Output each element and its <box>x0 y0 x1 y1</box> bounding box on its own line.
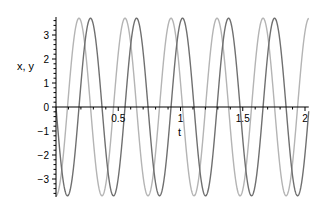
y-tick-label: 2 <box>43 54 49 65</box>
y-tick-label: −2 <box>38 150 50 161</box>
y-tick-label: −3 <box>38 174 50 185</box>
y-axis: 3210−1−2−3 <box>38 17 56 197</box>
y-tick-label: 0 <box>43 102 49 113</box>
x-tick-label: 0.5 <box>111 113 125 124</box>
chart: 3210−1−2−3 0.511.52 x, y t <box>0 0 329 210</box>
y-axis-label: x, y <box>17 60 35 72</box>
x-axis-label: t <box>178 126 181 138</box>
y-tick-label: 3 <box>43 30 49 41</box>
y-tick-label: −1 <box>38 126 50 137</box>
y-tick-label: 1 <box>43 78 49 89</box>
x-tick-label: 1 <box>178 113 184 124</box>
x-tick-label: 1.5 <box>236 113 250 124</box>
x-tick-label: 2 <box>302 113 308 124</box>
